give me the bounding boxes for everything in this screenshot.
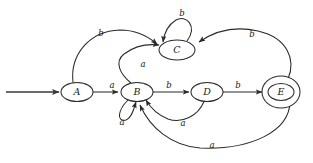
edge-label-b-to-d: b <box>166 80 171 90</box>
edge-label-e-to-b: a <box>209 140 214 150</box>
state-d-label: D <box>202 86 211 97</box>
state-c-label: C <box>173 44 181 55</box>
edge-label-b-to-c: a <box>140 59 145 69</box>
edge-d-to-b <box>146 100 204 120</box>
state-b-label: B <box>133 86 141 97</box>
edge-e-to-c <box>199 29 291 79</box>
state-e-label: E <box>277 86 285 97</box>
state-node-e[interactable]: E <box>262 76 300 108</box>
edge-c-self-loop <box>163 18 191 42</box>
state-node-d[interactable]: D <box>191 83 223 102</box>
state-node-b[interactable]: B <box>121 83 153 102</box>
state-node-a[interactable]: A <box>61 83 93 102</box>
edge-label-d-to-e: b <box>235 80 240 90</box>
edge-label-e-to-c: b <box>249 29 254 39</box>
edge-a-to-c <box>73 30 157 83</box>
diagram-canvas: b a a a b b a b b a A B C D E <box>0 0 313 163</box>
state-node-c[interactable]: C <box>159 40 195 60</box>
edge-label-c-self-loop: b <box>179 8 184 18</box>
state-a-label: A <box>73 86 81 97</box>
edge-label-b-self-loop: a <box>119 117 124 127</box>
edge-label-d-to-b: a <box>180 118 185 128</box>
edge-label-a-to-b: a <box>109 80 114 90</box>
fsm-diagram: b a a a b b a b b a A B C D E <box>0 0 313 163</box>
edge-b-to-c <box>119 45 159 83</box>
edge-e-to-b <box>140 101 290 148</box>
edge-label-a-to-c: b <box>98 28 103 38</box>
